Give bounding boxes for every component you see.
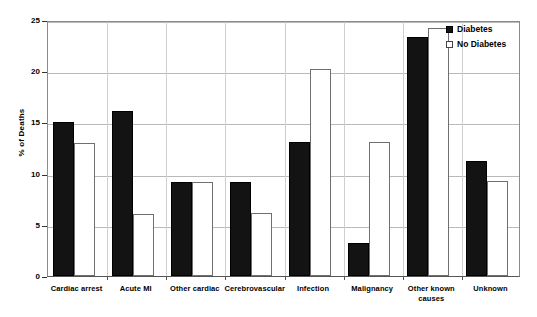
category-divider: [166, 22, 167, 276]
bar-no-diabetes-other-cardiac: [192, 182, 213, 276]
x-axis-label: Cardiac arrest: [47, 284, 106, 294]
bar-no-diabetes-infection: [310, 69, 331, 276]
x-axis-label: Unknown: [461, 284, 520, 294]
chart-legend: DiabetesNo Diabetes: [446, 24, 506, 49]
x-axis-label: Other cardiac: [165, 284, 224, 294]
plot-area: [47, 21, 520, 277]
x-tick-mark: [462, 276, 463, 280]
bar-diabetes-cerebrovascular: [230, 182, 251, 276]
bar-no-diabetes-other-known-causes: [428, 28, 449, 276]
x-tick-mark: [166, 276, 167, 280]
category-divider: [462, 22, 463, 276]
category-divider: [403, 22, 404, 276]
bar-diabetes-infection: [289, 142, 310, 276]
category-divider: [225, 22, 226, 276]
legend-item-label: No Diabetes: [457, 39, 506, 49]
bar-no-diabetes-malignancy: [369, 142, 390, 276]
y-tick-label: 15: [16, 119, 40, 127]
gridline: [48, 22, 519, 23]
x-axis-label: Malignancy: [343, 284, 402, 294]
x-tick-mark: [344, 276, 345, 280]
bar-no-diabetes-unknown: [487, 181, 508, 276]
x-tick-mark: [107, 276, 108, 280]
x-axis-label: Infection: [284, 284, 343, 294]
bar-chart: % of Deaths 0510152025 Cardiac arrestAcu…: [0, 0, 537, 317]
x-axis-label: Other known causes: [402, 284, 461, 303]
x-tick-mark: [225, 276, 226, 280]
y-tick-mark: [42, 277, 47, 278]
category-divider: [344, 22, 345, 276]
filled-square-icon: [446, 26, 453, 33]
bar-no-diabetes-cerebrovascular: [251, 213, 272, 276]
legend-item-label: Diabetes: [457, 24, 492, 34]
x-tick-mark: [403, 276, 404, 280]
bar-diabetes-cardiac-arrest: [53, 122, 74, 276]
y-tick-label: 0: [16, 273, 40, 281]
x-axis-label: Acute MI: [106, 284, 165, 294]
category-divider: [285, 22, 286, 276]
y-tick-label: 10: [16, 171, 40, 179]
bar-diabetes-other-known-causes: [407, 37, 428, 276]
category-divider: [107, 22, 108, 276]
bar-diabetes-unknown: [466, 161, 487, 276]
bar-diabetes-acute-mi: [112, 111, 133, 276]
legend-item-no-diabetes[interactable]: No Diabetes: [446, 39, 506, 49]
y-tick-label: 20: [16, 68, 40, 76]
bar-no-diabetes-cardiac-arrest: [74, 143, 95, 276]
x-axis-label: Cerebrovascular: [224, 284, 283, 294]
y-tick-label: 5: [16, 222, 40, 230]
bar-diabetes-malignancy: [348, 243, 369, 276]
bar-no-diabetes-acute-mi: [133, 214, 154, 276]
bar-diabetes-other-cardiac: [171, 182, 192, 276]
hollow-square-icon: [446, 41, 453, 48]
x-tick-mark: [285, 276, 286, 280]
legend-item-diabetes[interactable]: Diabetes: [446, 24, 506, 34]
y-tick-label: 25: [16, 17, 40, 25]
